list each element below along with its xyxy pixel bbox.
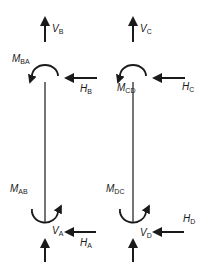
label-va: VA: [52, 226, 63, 237]
mcd-moment-arrow: [118, 65, 146, 82]
label-vb: VB: [52, 24, 63, 35]
mdc-moment-arrow: [120, 206, 149, 223]
mab-moment-arrow: [32, 206, 61, 223]
label-hc: HC: [182, 82, 194, 93]
label-ha: HA: [80, 238, 92, 249]
label-vc: VC: [140, 24, 152, 35]
label-mdc: MDC: [106, 184, 124, 195]
column-ab: [30, 18, 97, 262]
label-mab: MAB: [10, 184, 28, 195]
label-hb: HB: [80, 84, 92, 95]
label-hd: HD: [183, 214, 195, 225]
mba-moment-arrow: [30, 65, 58, 82]
label-mba: MBA: [12, 54, 30, 65]
label-vd: VD: [140, 228, 152, 239]
label-mcd: MCD: [117, 83, 135, 94]
frame-diagram: [0, 0, 207, 263]
column-cd: [118, 18, 185, 262]
